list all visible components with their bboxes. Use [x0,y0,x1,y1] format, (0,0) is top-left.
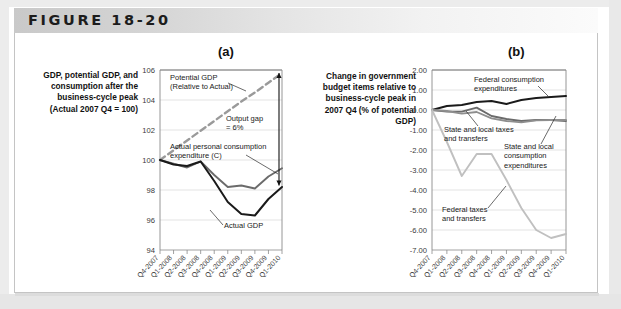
actual-gdp-leader [210,210,223,225]
output-gap-arrow-down [276,181,281,186]
panel-a-axis-label: GDP, potential GDP, and consumption afte… [28,70,138,115]
output-gap-label: = 6% [226,123,244,132]
federal-consumption-label: Federal consumption [474,75,544,84]
figure-root: FIGURE 18-20 (a) (b) GDP, potential GDP,… [0,0,621,309]
y-tick-label: -3.00 [410,166,427,175]
federal-consumption-leader [538,86,548,96]
panel-b-letter: (b) [508,44,525,59]
y-tick-label: -1.00 [410,126,427,135]
state-local-consumption-label: consumption [504,151,547,160]
series-line [160,160,282,216]
output-gap-label: Output gap [226,114,263,123]
y-tick-label: -7.00 [410,246,427,255]
potential-gdp-label: (Relative to Actual) [170,82,233,91]
federal-taxes-label: Federal taxes [442,205,488,214]
federal-consumption-label: expenditures [474,84,517,93]
panel-a-chart: 949698100102104106Q4-2007Q1-2008Q2-2008Q… [128,64,328,294]
y-tick-label: 100 [142,156,155,165]
y-tick-label: -2.00 [410,146,427,155]
series-line [432,96,566,110]
y-tick-label: -6.00 [410,226,427,235]
y-tick-label: 104 [142,96,155,105]
panel-b-chart: -7.00-6.00-5.00-4.00-3.00-2.00-1.000.001… [396,64,606,294]
y-tick-label: 96 [147,216,155,225]
page-backdrop-top [0,0,621,7]
federal-taxes-label: and transfers [442,214,486,223]
consumption-leader [246,155,278,174]
actual-gdp-label: Actual GDP [224,221,263,230]
y-tick-label: -4.00 [410,186,427,195]
panel-a-letter: (a) [218,44,234,59]
state-local-consumption-label: expenditures [504,161,547,170]
consumption-label: Actual personal consumption [170,142,266,151]
figure-title: FIGURE 18-20 [28,12,171,28]
y-tick-label: 2.00 [412,66,427,75]
y-tick-label: 0.00 [412,106,427,115]
series-line [432,110,566,122]
y-tick-label: 1.00 [412,86,427,95]
y-tick-label: 106 [142,66,155,75]
federal-taxes-leader [488,186,506,208]
consumption-label: expenditure (C) [170,151,222,160]
state-local-taxes-label: and transfers [444,134,488,143]
page-backdrop-bottom [0,294,621,309]
state-local-taxes-label: State and local taxes [444,125,514,134]
y-tick-label: 102 [142,126,155,135]
page-backdrop-right [609,0,621,309]
potential-gdp-label: Potential GDP [170,73,218,82]
state-local-consumption-label: State and local [504,142,554,151]
page-backdrop-left [0,0,9,309]
y-tick-label: 94 [147,246,155,255]
y-tick-label: -5.00 [410,206,427,215]
y-tick-label: 98 [147,186,155,195]
